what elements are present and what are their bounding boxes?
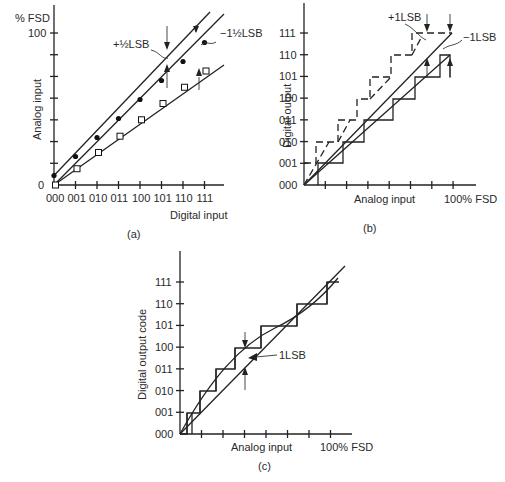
a-filled-marker: [51, 173, 56, 178]
c-y-tick-label: 111: [155, 276, 172, 288]
b-minus-leader: [443, 40, 462, 49]
c-x-label: Analog input: [231, 441, 292, 453]
a-y-label: Analog input: [31, 79, 43, 140]
b-y-tick-label: 000: [279, 179, 297, 191]
panel-c: 000001010011100101110111 Digital output …: [136, 251, 373, 472]
a-plus-leader: [151, 50, 168, 58]
panel-a: 000001010011100101110111 % FSD 100 0 Ana…: [15, 5, 263, 240]
a-x-tick-label: 011: [111, 192, 129, 204]
b-caption: (b): [363, 222, 376, 234]
a-x-tick-label: 000: [46, 192, 64, 204]
c-x-end-label: 100% FSD: [320, 441, 373, 453]
a-filled-marker: [202, 40, 207, 45]
c-y-tick-label: 110: [155, 298, 173, 310]
c-y-tick-label: 100: [155, 341, 173, 353]
arrow-up-icon: [447, 58, 453, 66]
arrow-up-icon: [242, 367, 248, 375]
b-plus-annotation: +1LSB: [388, 11, 421, 23]
figure: 000001010011100101110111 % FSD 100 0 Ana…: [0, 0, 505, 482]
a-x-tick-label: 111: [197, 192, 214, 204]
b-plus-staircase: [304, 33, 452, 163]
a-filled-marker: [116, 116, 121, 121]
a-series-line-0: [54, 12, 210, 176]
b-y-tick-label: 001: [279, 157, 297, 169]
b-y-tick-label: 110: [279, 49, 297, 61]
arrow-down-icon: [164, 42, 170, 50]
arrow-down-icon: [447, 24, 453, 32]
a-minus-annotation: −1½LSB: [220, 27, 263, 39]
arrow-up-icon: [424, 58, 430, 66]
a-filled-marker: [94, 135, 99, 140]
a-square-marker: [160, 101, 166, 107]
c-annot-leader: [256, 355, 277, 357]
a-x-tick-label: 101: [154, 192, 172, 204]
c-y-tick-label: 001: [155, 406, 173, 418]
a-square-marker: [203, 68, 209, 74]
a-filled-marker: [159, 78, 164, 83]
a-filled-marker: [180, 59, 185, 64]
a-square-marker: [117, 133, 123, 139]
a-x-tick-label: 010: [89, 192, 107, 204]
arrow-up-icon: [196, 68, 202, 76]
a-square-marker: [139, 117, 145, 123]
b-x-label: Analog input: [354, 193, 415, 205]
a-arrows: [164, 25, 202, 90]
c-y-label: Digital output code: [136, 309, 148, 400]
b-minus-line: [304, 55, 450, 185]
b-ideal-line: [304, 33, 452, 185]
b-y-label: Digital output: [281, 84, 293, 148]
a-caption: (a): [127, 228, 140, 240]
arrow-up-icon: [164, 64, 170, 72]
b-y-tick-label: 101: [279, 70, 297, 82]
a-plus-annotation: +½LSB: [113, 38, 149, 50]
c-ideal-line: [180, 266, 345, 434]
a-y-top-label: 100: [28, 27, 46, 39]
a-square-marker: [53, 182, 59, 188]
a-x-tick-label: 001: [68, 192, 86, 204]
a-square-marker: [182, 84, 188, 90]
b-y-tick-label: 111: [279, 27, 296, 39]
a-y-unit: % FSD: [15, 12, 50, 24]
a-y-zero-label: 0: [38, 179, 44, 191]
a-filled-marker: [137, 97, 142, 102]
c-staircase-ends: [192, 304, 327, 434]
b-minus-staircase: [318, 55, 450, 185]
c-annotation: 1LSB: [279, 349, 306, 361]
a-x-tick-label: 100: [132, 192, 150, 204]
a-filled-marker: [73, 154, 78, 159]
a-x-label: Digital input: [170, 209, 227, 221]
arrow-down-icon: [424, 24, 430, 32]
c-caption: (c): [258, 460, 271, 472]
c-y-tick-label: 010: [155, 385, 173, 397]
c-y-tick-label: 000: [155, 428, 173, 440]
a-x-tick-label: 110: [175, 192, 193, 204]
b-plus-leader: [405, 24, 426, 40]
a-square-marker: [74, 166, 80, 172]
b-x-end-label: 100% FSD: [444, 193, 497, 205]
c-arrows: [242, 332, 248, 390]
b-minus-annotation: −1LSB: [463, 31, 496, 43]
panel-b: 000001010011100101110111 Digital output …: [279, 3, 497, 234]
c-staircase: [180, 282, 339, 434]
c-y-tick-label: 101: [155, 319, 173, 331]
c-y-tick-label: 011: [155, 363, 173, 375]
a-square-marker: [96, 149, 102, 155]
